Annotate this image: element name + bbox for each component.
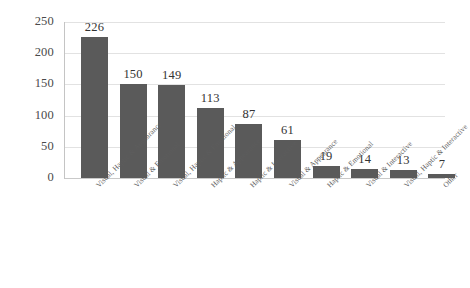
bar xyxy=(81,37,108,178)
bar-value-label: 149 xyxy=(162,68,181,83)
y-tick-label-250: 250 xyxy=(20,14,54,29)
bar-value-label: 113 xyxy=(201,91,220,106)
bar-value-label: 7 xyxy=(439,157,445,172)
y-tick-label-150: 150 xyxy=(20,76,54,91)
y-tick-label-200: 200 xyxy=(20,45,54,60)
y-tick-label-100: 100 xyxy=(20,108,54,123)
bar-value-label: 87 xyxy=(242,107,255,122)
y-tick-label-0: 0 xyxy=(20,170,54,185)
bar-value-label: 226 xyxy=(85,20,104,35)
y-tick-label-50: 50 xyxy=(20,139,54,154)
bar-value-label: 61 xyxy=(281,123,294,138)
bar-value-label: 150 xyxy=(123,67,142,82)
